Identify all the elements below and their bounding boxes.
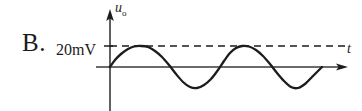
waveform-plot [0,0,362,111]
diagram-root: B. 20mV uo t [0,0,362,111]
